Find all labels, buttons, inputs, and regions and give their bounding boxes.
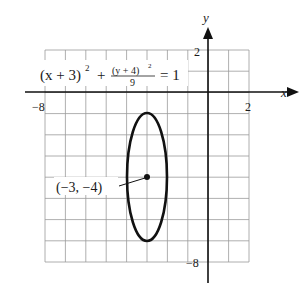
svg-text:= 1: = 1 — [160, 67, 180, 83]
ellipse-center-point — [144, 174, 150, 180]
svg-text:9: 9 — [130, 77, 135, 88]
x-tick-label-max: 2 — [245, 100, 251, 114]
svg-text:+: + — [97, 67, 105, 83]
y-tick-label-max: 2 — [194, 45, 200, 59]
y-tick-label-min: −8 — [186, 256, 199, 270]
y-axis-label: y — [201, 10, 209, 25]
ellipse-graph: x y −8 2 2 −8 (x + 3) 2 + (y + 4) 2 9 = … — [0, 0, 301, 290]
annotation-leader — [119, 178, 145, 186]
x-axis-arrow-icon — [287, 87, 299, 97]
center-annotation: (−3, −4) — [56, 180, 102, 196]
x-tick-label-min: −8 — [32, 100, 45, 114]
svg-text:2: 2 — [85, 63, 90, 73]
svg-text:(x + 3): (x + 3) — [40, 67, 81, 84]
svg-text:(y + 4): (y + 4) — [112, 65, 139, 77]
y-axis-arrow-icon — [203, 27, 213, 39]
x-axis-label: x — [280, 85, 287, 100]
svg-text:2: 2 — [148, 62, 152, 70]
